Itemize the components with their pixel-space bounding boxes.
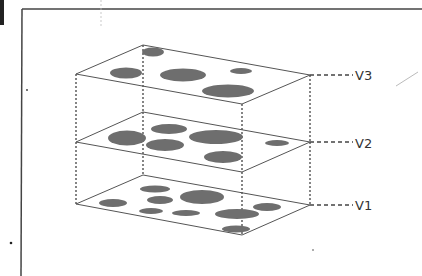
blob <box>139 208 163 214</box>
blob <box>204 151 242 163</box>
blob <box>265 140 289 146</box>
scan-speck <box>10 242 13 245</box>
scan-speck <box>26 89 28 91</box>
layer-v1: V1 <box>76 175 372 235</box>
layered-planes-diagram: V3V2V1 <box>0 0 422 276</box>
blob <box>222 226 250 233</box>
blob <box>108 131 146 146</box>
blob <box>147 196 173 204</box>
blob <box>202 85 254 98</box>
blob <box>146 139 184 151</box>
blob <box>160 69 206 82</box>
blob <box>253 203 281 211</box>
layer-v2: V2 <box>76 112 372 172</box>
layer-label-v2: V2 <box>355 136 372 151</box>
scan-speck <box>312 249 314 251</box>
layer-v3: V3 <box>76 45 372 104</box>
layer-label-v1: V1 <box>355 198 372 213</box>
blob <box>189 130 243 144</box>
pencil-mark <box>396 72 418 86</box>
blob <box>142 48 164 57</box>
blob <box>172 210 200 216</box>
margin-bar <box>0 0 4 25</box>
frame-left-border <box>21 9 22 276</box>
blob <box>180 190 224 204</box>
blob <box>110 68 142 79</box>
blob <box>99 199 127 207</box>
blob <box>230 68 252 74</box>
blob <box>215 209 259 219</box>
layer-label-v3: V3 <box>355 68 372 83</box>
blob <box>151 124 187 134</box>
diagram-content: V3V2V1 <box>76 45 372 235</box>
blob <box>140 186 170 193</box>
